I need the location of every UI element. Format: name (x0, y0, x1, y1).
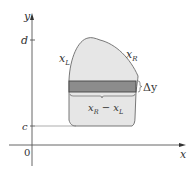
x-axis-arrow-icon (179, 143, 186, 147)
diagram-canvas: y d c 0 x xL xR Δy xR − xL (0, 0, 195, 174)
height-brace (138, 81, 142, 92)
c-label: c (22, 121, 28, 132)
d-label: d (21, 34, 28, 47)
horizontal-strip (69, 81, 136, 92)
delta-y-label: Δy (143, 81, 158, 94)
x-left-label: xL (59, 52, 70, 67)
x-right-label: xR (126, 48, 138, 63)
x-axis-label: x (180, 148, 187, 161)
y-axis-label: y (23, 10, 31, 23)
y-axis-arrow-icon (30, 13, 34, 20)
origin-label: 0 (24, 147, 30, 158)
